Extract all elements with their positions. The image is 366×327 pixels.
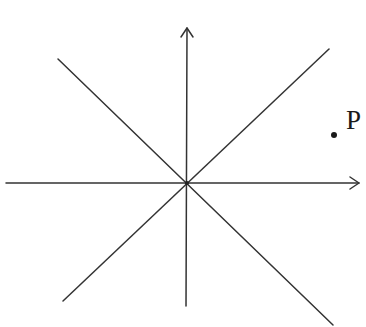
- diagram-canvas: P: [0, 0, 366, 327]
- y-axis: [186, 28, 187, 306]
- diagonal-line-sw-ne: [63, 49, 329, 301]
- diagram-svg: [0, 0, 366, 327]
- diagonal-line-nw-se: [58, 59, 333, 325]
- point-p-dot: [331, 132, 337, 138]
- point-p-label: P: [346, 107, 361, 134]
- origin-point: [185, 181, 189, 185]
